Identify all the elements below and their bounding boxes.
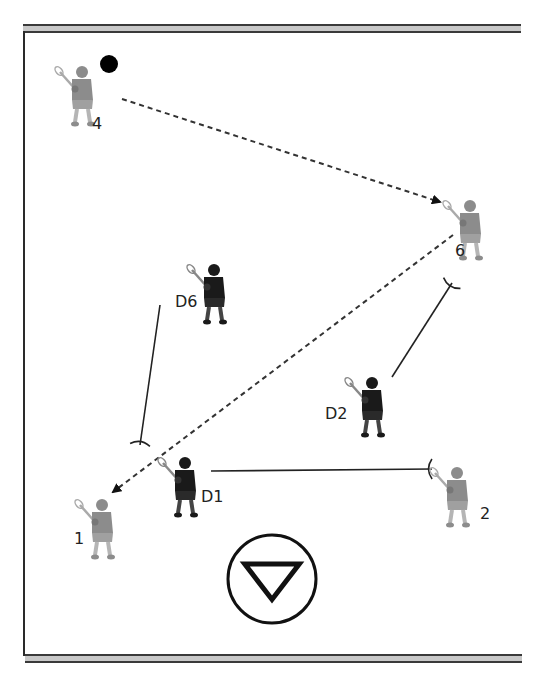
defender-icon <box>343 376 385 437</box>
player-2: 2 <box>428 466 490 527</box>
defender-icon <box>156 456 198 517</box>
approach-line-D2-to-6 <box>392 283 452 377</box>
pass-lines <box>113 99 453 492</box>
pass-line-6-to-1 <box>113 235 453 492</box>
players: 4612D6D2D1 <box>53 65 490 559</box>
player-D2: D2 <box>325 376 385 437</box>
player-label-6: 6 <box>455 241 465 260</box>
player-6: 6 <box>441 199 483 260</box>
player-D1: D1 <box>156 456 223 517</box>
player-label-2: 2 <box>480 504 490 523</box>
pass-line-4-to-6 <box>122 99 440 202</box>
player-1: 1 <box>73 498 115 559</box>
player-4: 4 <box>53 65 102 133</box>
goal-icon <box>228 535 316 623</box>
approach-line-D6-to-1 <box>140 305 160 445</box>
ball-icon <box>100 55 118 73</box>
approach-line-D1-to-2 <box>211 469 432 471</box>
player-label-4: 4 <box>92 114 102 133</box>
player-D6: D6 <box>175 263 227 324</box>
player-label-D6: D6 <box>175 292 198 311</box>
player-label-D2: D2 <box>325 404 348 423</box>
attacker-icon <box>428 466 470 527</box>
player-label-1: 1 <box>74 529 84 548</box>
player-label-D1: D1 <box>201 487 224 506</box>
play-diagram: 4612D6D2D1 <box>0 0 543 677</box>
attacker-icon <box>53 65 95 126</box>
